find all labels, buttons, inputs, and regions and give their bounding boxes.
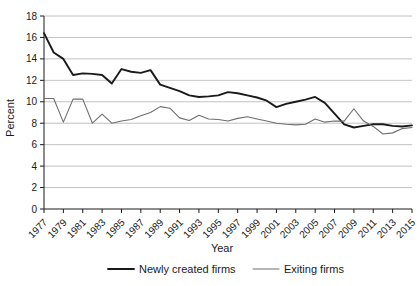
x-tick-label: 2003 bbox=[278, 216, 302, 240]
y-tick-label: 0 bbox=[31, 204, 37, 215]
y-axis-tick-labels: 024681012141618 bbox=[26, 11, 38, 215]
x-tick-label: 1991 bbox=[161, 216, 185, 240]
x-tick-label: 1995 bbox=[200, 216, 224, 240]
x-axis-ticks bbox=[44, 209, 412, 213]
y-tick-label: 4 bbox=[31, 161, 37, 172]
chart-canvas: 024681012141618 197719791981198319851987… bbox=[0, 0, 418, 286]
gridlines bbox=[44, 16, 412, 188]
x-tick-label: 2001 bbox=[258, 216, 282, 240]
legend-label-newly-created-firms: Newly created firms bbox=[139, 263, 236, 275]
x-tick-label: 1989 bbox=[142, 216, 166, 240]
x-tick-label: 1983 bbox=[84, 216, 108, 240]
x-axis-title: Year bbox=[211, 242, 234, 254]
y-axis-title: Percent bbox=[4, 99, 16, 137]
y-tick-label: 14 bbox=[26, 53, 38, 64]
y-tick-label: 10 bbox=[26, 96, 38, 107]
x-tick-label: 1981 bbox=[65, 216, 89, 240]
data-series-group bbox=[44, 33, 412, 134]
x-tick-label: 1977 bbox=[26, 216, 50, 240]
x-tick-label: 2015 bbox=[394, 216, 418, 240]
x-tick-label: 1987 bbox=[123, 216, 147, 240]
y-tick-label: 8 bbox=[31, 118, 37, 129]
x-tick-label: 1997 bbox=[220, 216, 244, 240]
x-tick-label: 1993 bbox=[181, 216, 205, 240]
y-tick-label: 6 bbox=[31, 139, 37, 150]
line-chart: 024681012141618 197719791981198319851987… bbox=[0, 0, 418, 286]
chart-legend: Newly created firms Exiting firms bbox=[108, 263, 344, 275]
x-tick-label: 2011 bbox=[356, 216, 379, 239]
y-tick-label: 16 bbox=[26, 32, 38, 43]
x-tick-label: 1999 bbox=[239, 216, 263, 240]
x-tick-label: 2013 bbox=[375, 216, 399, 240]
y-tick-label: 12 bbox=[26, 75, 38, 86]
x-tick-label: 2005 bbox=[297, 216, 321, 240]
y-tick-label: 2 bbox=[31, 182, 37, 193]
x-axis-tick-labels: 1977197919811983198519871989199119931995… bbox=[26, 216, 418, 240]
x-tick-label: 2009 bbox=[336, 216, 360, 240]
legend-label-exiting-firms: Exiting firms bbox=[284, 263, 344, 275]
x-tick-label: 1979 bbox=[45, 216, 69, 240]
x-tick-label: 2007 bbox=[316, 216, 340, 240]
y-tick-label: 18 bbox=[26, 11, 38, 22]
x-tick-label: 1985 bbox=[103, 216, 127, 240]
series-line-exiting-firms bbox=[44, 99, 412, 134]
